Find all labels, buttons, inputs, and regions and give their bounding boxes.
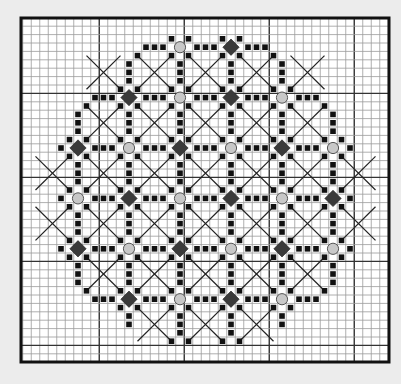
stitch-square [177,263,183,269]
stitch-square [118,238,124,244]
stitch-square [228,330,234,336]
stitch-square [186,238,192,244]
stitch-square [194,44,200,50]
stitch-square [330,271,336,277]
stitch-square [203,296,209,302]
stitch-square [186,305,192,311]
stitch-square [75,170,81,176]
stitch-square [101,145,107,151]
stitch-square [194,196,200,202]
stitch-square [322,154,328,160]
stitch-square [126,179,132,185]
stitch-square [339,204,345,210]
stitch-square [279,280,285,286]
stitch-square [186,254,192,260]
stitch-square [237,53,243,59]
stitch-square [143,196,149,202]
stitch-square [279,229,285,235]
stitch-square [279,61,285,67]
stitch-square [169,36,175,42]
stitch-square [126,112,132,118]
stitch-square [220,288,226,294]
stitch-square [135,254,141,260]
stitch-square [313,145,319,151]
stitch-square [101,95,107,101]
stitch-square [160,95,166,101]
stitch-square [135,137,141,143]
stitch-square [143,95,149,101]
stitch-square [279,70,285,76]
stitch-square [322,204,328,210]
circle-motif [123,243,134,254]
stitch-square [296,296,302,302]
stitch-square [92,196,98,202]
stitch-square [75,229,81,235]
stitch-square [177,229,183,235]
stitch-square [135,288,141,294]
stitch-square [169,204,175,210]
stitch-square [211,296,217,302]
stitch-square [135,103,141,109]
stitch-square [322,288,328,294]
stitch-square [75,112,81,118]
stitch-square [135,238,141,244]
stitch-square [228,179,234,185]
stitch-square [126,322,132,328]
stitch-square [75,271,81,277]
stitch-square [237,288,243,294]
stitch-square [101,196,107,202]
stitch-square [305,296,311,302]
stitch-square [262,145,268,151]
stitch-square [126,313,132,319]
stitch-square [92,246,98,252]
stitch-square [237,254,243,260]
stitch-square [143,44,149,50]
stitch-square [169,305,175,311]
stitch-square [177,271,183,277]
stitch-square [271,305,277,311]
stitch-square [271,288,277,294]
stitch-square [160,44,166,50]
stitch-square [296,95,302,101]
stitch-square [228,162,234,168]
stitch-square [177,120,183,126]
stitch-square [288,154,294,160]
stitch-square [237,204,243,210]
stitch-square [194,246,200,252]
stitch-square [84,254,90,260]
stitch-square [84,187,90,193]
stitch-square [126,221,132,227]
stitch-square [271,254,277,260]
stitch-square [126,78,132,84]
stitch-square [186,86,192,92]
stitch-square [313,246,319,252]
stitch-square [135,53,141,59]
stitch-square [237,338,243,344]
stitch-square [135,305,141,311]
stitch-square [177,280,183,286]
stitch-square [220,204,226,210]
stitch-square [322,137,328,143]
stitch-square [288,204,294,210]
stitch-square [228,128,234,134]
stitch-square [279,263,285,269]
stitch-square [245,246,251,252]
stitch-square [254,44,260,50]
stitch-square [186,288,192,294]
stitch-square [305,145,311,151]
grid-area [21,18,389,362]
stitch-square [228,280,234,286]
stitch-square [143,296,149,302]
stitch-square [177,221,183,227]
stitch-square [254,296,260,302]
stitch-square [169,103,175,109]
stitch-square [288,254,294,260]
stitch-square [330,263,336,269]
stitch-square [126,120,132,126]
stitch-square [109,246,115,252]
stitch-square [135,204,141,210]
stitch-square [330,112,336,118]
stitch-square [279,112,285,118]
stitch-square [245,95,251,101]
stitch-square [211,145,217,151]
